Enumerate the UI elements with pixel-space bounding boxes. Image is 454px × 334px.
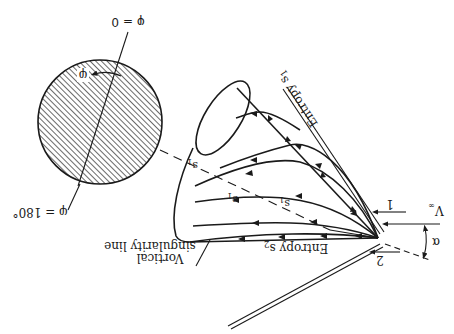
vortical-leader bbox=[196, 240, 210, 266]
streamlines bbox=[190, 111, 378, 242]
label-1: 1 bbox=[386, 197, 394, 211]
phi-zero-label: φ = 0 bbox=[111, 15, 144, 29]
diagram-svg: φ φ = 0 φ = 180° bbox=[0, 0, 454, 334]
cross-section-circle: φ bbox=[38, 32, 162, 186]
s1-label-b: s1 bbox=[227, 191, 238, 206]
entropy-s2-label: Entropy s2 bbox=[264, 239, 328, 255]
phi-label: φ bbox=[79, 68, 87, 82]
cone-flow-diagram: φ φ = 0 φ = 180° bbox=[0, 0, 454, 334]
entropy-s1-label: Entropy s1 bbox=[273, 68, 322, 130]
vortical-label-line2: singularity line bbox=[104, 239, 196, 253]
streamline-arrowheads bbox=[232, 111, 362, 242]
cone-lower-outline bbox=[174, 148, 378, 242]
s1-label-c: s1 bbox=[279, 195, 290, 210]
s1-label-a: s1 bbox=[187, 157, 198, 172]
v-inf-label: V∞ bbox=[428, 201, 444, 217]
symmetry-plane-dashed bbox=[160, 150, 330, 230]
phi-180-leader bbox=[68, 184, 80, 210]
alpha-arc bbox=[424, 228, 426, 256]
phi-180-label: φ = 180° bbox=[13, 205, 68, 219]
label-2: 2 bbox=[376, 253, 384, 267]
cone-base-ellipse bbox=[185, 73, 260, 163]
alpha-label: α bbox=[432, 235, 440, 249]
freestream: 1 V∞ α 2 bbox=[372, 197, 445, 267]
